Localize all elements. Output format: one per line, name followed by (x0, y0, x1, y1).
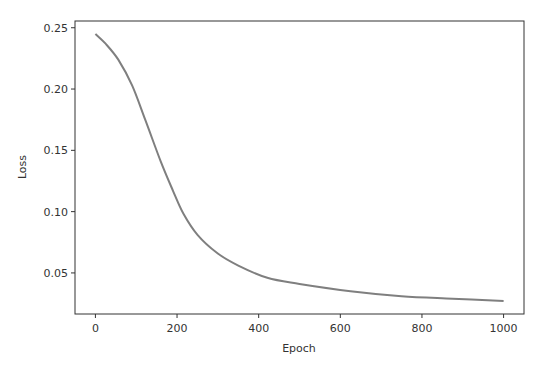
axes-frame (75, 21, 524, 314)
y-tick-label: 0.15 (44, 144, 69, 157)
y-tick-label: 0.20 (44, 83, 69, 96)
y-axis-ticks: 0.050.100.150.200.25 (44, 22, 76, 280)
x-tick-label: 600 (330, 322, 351, 335)
x-axis-ticks: 02004006008001000 (92, 314, 518, 335)
loss-chart: 02004006008001000 0.050.100.150.200.25 E… (0, 0, 541, 371)
x-tick-label: 0 (92, 322, 99, 335)
y-axis-label: Loss (16, 155, 29, 179)
x-tick-label: 200 (167, 322, 188, 335)
y-tick-label: 0.25 (44, 22, 69, 35)
y-tick-label: 0.10 (44, 206, 69, 219)
x-tick-label: 1000 (490, 322, 518, 335)
plot-area (95, 34, 503, 301)
x-tick-label: 400 (248, 322, 269, 335)
y-tick-label: 0.05 (44, 267, 69, 280)
x-axis-label: Epoch (282, 342, 316, 355)
x-tick-label: 800 (411, 322, 432, 335)
loss-curve (95, 34, 503, 301)
